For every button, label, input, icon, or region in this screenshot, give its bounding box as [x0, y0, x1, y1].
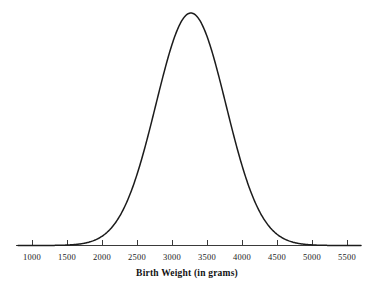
x-axis-title: Birth Weight (in grams) — [0, 268, 374, 278]
x-axis-tick-label: 5000 — [303, 252, 321, 262]
x-axis-tick-label: 3000 — [163, 252, 181, 262]
x-axis-tick-label: 3500 — [198, 252, 216, 262]
x-axis-tick-label: 2000 — [93, 252, 111, 262]
normal-curve-path — [18, 13, 361, 246]
chart-figure: 1000150020002500300035004000450050005500… — [0, 0, 374, 300]
x-axis-tick-label: 2500 — [128, 252, 146, 262]
x-axis-tick-label: 1500 — [58, 252, 76, 262]
x-axis-tick-label: 5500 — [338, 252, 356, 262]
x-axis-tick-label: 4500 — [268, 252, 286, 262]
x-axis-tick-label: 1000 — [23, 252, 41, 262]
x-axis-tick-label: 4000 — [233, 252, 251, 262]
